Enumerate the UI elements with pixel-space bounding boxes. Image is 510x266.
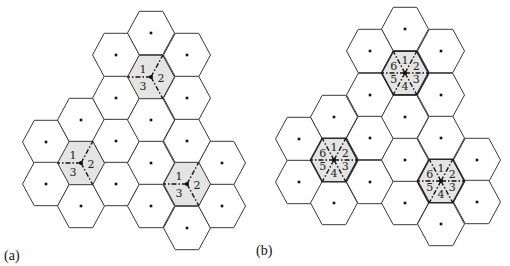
sector-label: 3	[342, 160, 349, 173]
sector-label: 2	[449, 168, 456, 181]
base-station-dot-icon	[115, 183, 118, 186]
base-station-dot-icon	[186, 140, 189, 143]
sector-label: 2	[194, 179, 201, 192]
sector-label: 5	[426, 181, 433, 194]
base-station-dot-icon	[369, 181, 372, 184]
base-station-dot-icon	[150, 119, 153, 122]
base-station-dot-icon	[369, 137, 372, 140]
base-station-dot-icon	[298, 181, 301, 184]
base-station-dot-icon	[404, 28, 407, 31]
base-station-dot-icon	[186, 97, 189, 100]
base-station-dot-icon	[404, 159, 407, 162]
base-station-dot-icon	[186, 54, 189, 57]
base-station-dot-icon	[150, 32, 153, 35]
sector-label: 6	[426, 168, 433, 181]
base-station-dot-icon	[440, 223, 443, 226]
sector-label: 3	[413, 73, 420, 86]
base-station-dot-icon	[333, 116, 336, 119]
base-station-dot-icon	[186, 227, 189, 230]
sector-label: 4	[438, 188, 445, 201]
sector-label: 2	[88, 158, 95, 171]
sector-label: 1	[70, 149, 77, 162]
base-station-dot-icon	[115, 54, 118, 57]
base-station-dot-icon	[115, 140, 118, 143]
base-station-dot-icon	[369, 94, 372, 97]
base-station-dot-icon	[115, 97, 118, 100]
sector-label: 2	[342, 147, 349, 160]
base-station-dot-icon	[440, 50, 443, 53]
sector-label: 3	[449, 181, 456, 194]
base-station-dot-icon	[45, 183, 48, 186]
base-station-dot-icon	[221, 205, 224, 208]
panel-b: 123456123456123456	[276, 7, 501, 245]
sector-label: 1	[140, 63, 147, 76]
sector-label: 5	[319, 160, 326, 173]
sector-label: 2	[158, 72, 165, 85]
sector-label: 6	[319, 147, 326, 160]
base-station-dot-icon	[404, 202, 407, 205]
base-station-antenna-icon	[332, 158, 336, 162]
sector-label: 1	[176, 170, 183, 183]
base-station-dot-icon	[45, 141, 48, 144]
panel-label-a: (a)	[4, 248, 20, 264]
sector-label: 4	[402, 80, 409, 93]
base-station-dot-icon	[150, 205, 153, 208]
cellular-sectorization-figure: 123123123123456123456123456 (a) (b)	[0, 0, 510, 266]
base-station-antenna-icon	[185, 182, 189, 186]
sector-label: 5	[390, 73, 397, 86]
sector-label: 3	[176, 187, 183, 200]
sector-label: 1	[402, 54, 409, 67]
base-station-dot-icon	[333, 202, 336, 205]
base-station-antenna-icon	[439, 179, 443, 183]
sector-label: 6	[390, 60, 397, 73]
sector-label: 4	[331, 167, 338, 180]
base-station-dot-icon	[440, 137, 443, 140]
base-station-dot-icon	[80, 119, 83, 122]
base-station-dot-icon	[80, 205, 83, 208]
base-station-antenna-icon	[149, 75, 153, 79]
base-station-dot-icon	[476, 159, 479, 162]
base-station-dot-icon	[476, 201, 479, 204]
hexagonal-cell-diagram: 123123123123456123456123456	[0, 0, 510, 266]
base-station-antenna-icon	[79, 161, 83, 165]
base-station-dot-icon	[440, 94, 443, 97]
sector-label: 2	[413, 60, 420, 73]
base-station-dot-icon	[404, 116, 407, 119]
base-station-dot-icon	[369, 50, 372, 53]
base-station-dot-icon	[150, 162, 153, 165]
panel-label-b: (b)	[256, 243, 272, 259]
sector-label: 1	[331, 141, 338, 154]
base-station-dot-icon	[298, 138, 301, 141]
panel-a: 123123123	[23, 11, 246, 249]
sector-label: 3	[70, 166, 77, 179]
base-station-antenna-icon	[403, 71, 407, 75]
sector-label: 1	[438, 162, 445, 175]
base-station-dot-icon	[221, 162, 224, 165]
sector-label: 3	[140, 80, 147, 93]
